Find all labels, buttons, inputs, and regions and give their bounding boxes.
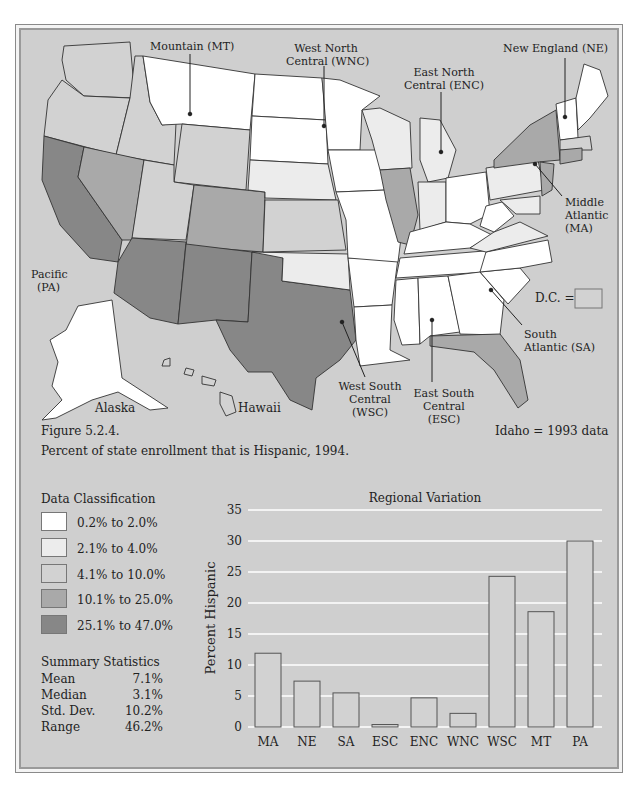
- x-tick-label: ESC: [372, 735, 398, 749]
- y-tick-label: 30: [227, 534, 242, 548]
- bar-mt: [528, 612, 554, 727]
- y-tick-label: 20: [227, 596, 242, 610]
- x-tick-label: WNC: [447, 735, 479, 749]
- x-tick-label: PA: [572, 735, 588, 749]
- bar-pa: [567, 541, 593, 727]
- bar-ma: [255, 653, 281, 727]
- bar-wsc: [489, 576, 515, 727]
- chart-title: Regional Variation: [369, 491, 482, 505]
- bar-ne: [294, 681, 320, 727]
- x-tick-label: SA: [338, 735, 355, 749]
- x-tick-label: WSC: [487, 735, 517, 749]
- x-tick-label: ENC: [410, 735, 438, 749]
- x-tick-label: NE: [297, 735, 316, 749]
- y-tick-label: 25: [227, 565, 242, 579]
- y-tick-label: 15: [227, 627, 242, 641]
- y-tick-label: 35: [227, 503, 242, 517]
- y-tick-label: 5: [234, 689, 242, 703]
- regional-variation-bar-chart: Regional Variation05101520253035Percent …: [0, 0, 639, 791]
- y-tick-label: 0: [234, 720, 242, 734]
- y-tick-label: 10: [227, 658, 242, 672]
- bar-wnc: [450, 713, 476, 727]
- y-axis-label: Percent Hispanic: [203, 562, 218, 675]
- bar-sa: [333, 693, 359, 727]
- x-tick-label: MT: [531, 735, 551, 749]
- bar-esc: [372, 725, 398, 727]
- bar-enc: [411, 698, 437, 727]
- x-tick-label: MA: [258, 735, 279, 749]
